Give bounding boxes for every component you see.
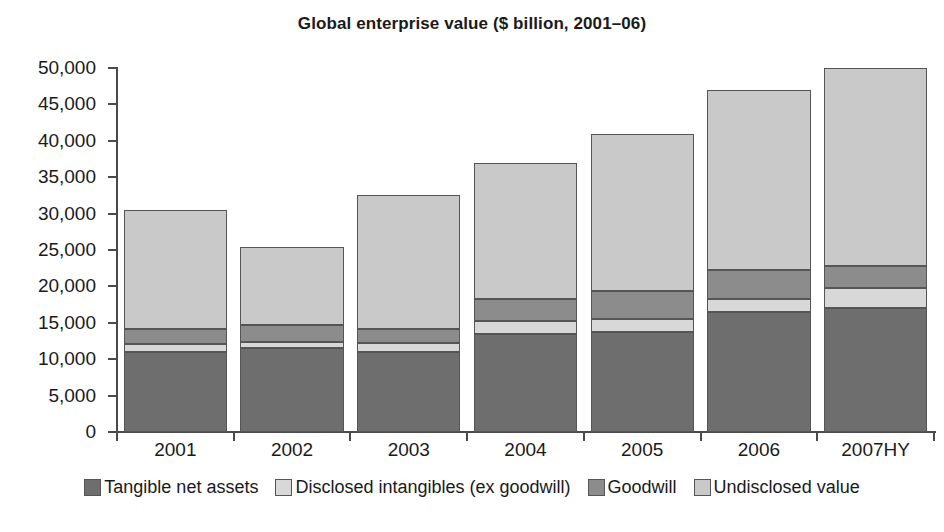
bar-segment[interactable] [240,325,343,342]
bar-segment[interactable] [591,291,694,319]
legend-swatch-icon [275,479,292,496]
x-axis-tick-label: 2003 [350,440,467,459]
bar-column[interactable] [240,68,343,432]
y-axis-tick-label: 15,000 [6,313,96,332]
bar-segment[interactable] [357,343,460,352]
y-axis-tick [108,249,116,251]
bar-segment[interactable] [474,334,577,432]
bar-segment[interactable] [591,319,694,331]
bar-column[interactable] [824,68,927,432]
bar-segment[interactable] [124,344,227,352]
bar-segment[interactable] [474,321,577,334]
legend-label: Disclosed intangibles (ex goodwill) [295,478,570,496]
bar-segment[interactable] [124,210,227,329]
legend-swatch-icon [588,479,605,496]
y-axis-tick-label: 40,000 [6,131,96,150]
legend-swatch-icon [694,479,711,496]
bar-column[interactable] [124,68,227,432]
x-axis-tick-label: 2006 [701,440,818,459]
y-axis-tick [108,395,116,397]
y-axis-tick-label: 45,000 [6,94,96,113]
plot-area [117,68,934,432]
y-axis-tick [108,322,116,324]
y-axis-tick-label: 5,000 [6,386,96,405]
bar-column[interactable] [474,68,577,432]
bar-column[interactable] [591,68,694,432]
legend-label: Undisclosed value [714,478,860,496]
y-axis-tick [108,140,116,142]
bar-segment[interactable] [824,68,927,266]
y-axis-tick [108,431,116,433]
bar-segment[interactable] [240,247,343,325]
bar-segment[interactable] [474,299,577,321]
x-axis-tick-label: 2004 [467,440,584,459]
bar-column[interactable] [357,68,460,432]
legend-item[interactable]: Tangible net assets [84,478,258,496]
bar-segment[interactable] [474,163,577,299]
bar-segment[interactable] [240,348,343,432]
x-axis-tick-label: 2001 [117,440,234,459]
x-axis-tick-label: 2005 [584,440,701,459]
y-axis-tick [108,103,116,105]
legend-item[interactable]: Undisclosed value [694,478,860,496]
legend-swatch-icon [84,479,101,496]
y-axis-tick-label: 25,000 [6,240,96,259]
chart-legend: Tangible net assetsDisclosed intangibles… [0,478,944,496]
y-axis-tick-label: 50,000 [6,58,96,77]
bar-segment[interactable] [824,266,927,288]
y-axis-tick [108,358,116,360]
x-axis-tick-label: 2007HY [817,440,934,459]
chart-title: Global enterprise value ($ billion, 2001… [0,14,944,34]
y-axis-tick-label: 10,000 [6,349,96,368]
bar-segment[interactable] [357,329,460,344]
bar-segment[interactable] [707,270,810,299]
bar-segment[interactable] [591,134,694,292]
legend-label: Tangible net assets [104,478,258,496]
x-axis-tick-label: 2002 [234,440,351,459]
bar-segment[interactable] [707,90,810,270]
bar-segment[interactable] [591,332,694,432]
chart-container: Global enterprise value ($ billion, 2001… [0,0,944,532]
bar-segment[interactable] [357,195,460,328]
legend-item[interactable]: Disclosed intangibles (ex goodwill) [275,478,570,496]
bar-column[interactable] [707,68,810,432]
bar-segment[interactable] [707,299,810,312]
bar-segment[interactable] [824,288,927,308]
y-axis-tick-label: 20,000 [6,276,96,295]
bar-segment[interactable] [124,352,227,432]
y-axis-tick-label: 35,000 [6,167,96,186]
bar-segment[interactable] [357,352,460,432]
y-axis-tick-label: 30,000 [6,204,96,223]
y-axis-tick [108,213,116,215]
y-axis-tick [108,285,116,287]
bar-segment[interactable] [707,312,810,432]
bar-segment[interactable] [240,342,343,349]
bar-segment[interactable] [824,308,927,432]
legend-label: Goodwill [608,478,677,496]
y-axis-tick [108,67,116,69]
y-axis-tick-label: 0 [6,422,96,441]
legend-item[interactable]: Goodwill [588,478,677,496]
bar-segment[interactable] [124,329,227,344]
y-axis-tick [108,176,116,178]
